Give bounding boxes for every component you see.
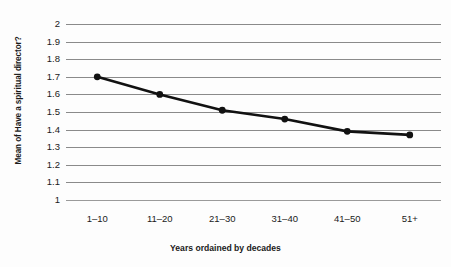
- data-point: [344, 128, 351, 135]
- series-line-spiritual-director: [66, 24, 441, 200]
- y-tick-label: 1.9: [28, 37, 60, 47]
- x-tick-label: 1–10: [87, 214, 108, 224]
- y-tick-label: 1.8: [28, 54, 60, 64]
- y-tick-label: 1.3: [28, 142, 60, 152]
- gridline: [66, 200, 441, 201]
- line-chart: Mean of Have a spiritual director? 21.91…: [0, 0, 451, 267]
- y-tick-label: 1: [28, 195, 60, 205]
- x-tick-label: 11–20: [147, 214, 173, 224]
- y-tick-label: 1.6: [28, 89, 60, 99]
- x-tick-label: 41–50: [334, 214, 360, 224]
- series-markers: [94, 73, 413, 138]
- y-tick-label: 1.2: [28, 160, 60, 170]
- y-tick-label: 1.1: [28, 177, 60, 187]
- y-axis-tick-labels: 21.91.81.71.61.51.41.31.21.11: [28, 0, 60, 267]
- y-axis-title-text: Mean of Have a spiritual director?: [14, 36, 23, 164]
- series-polyline: [97, 77, 410, 135]
- x-tick-label: 51+: [402, 214, 418, 224]
- y-tick-label: 2: [28, 19, 60, 29]
- y-tick-label: 1.7: [28, 72, 60, 82]
- data-point: [219, 107, 226, 114]
- data-point: [406, 131, 413, 138]
- y-tick-label: 1.5: [28, 107, 60, 117]
- plot-area: [66, 24, 441, 200]
- data-point: [281, 116, 288, 123]
- x-tick-label: 21–30: [209, 214, 235, 224]
- x-tick-label: 31–40: [272, 214, 298, 224]
- data-point: [94, 73, 101, 80]
- y-axis-title: Mean of Have a spiritual director?: [9, 0, 27, 200]
- data-point: [156, 91, 163, 98]
- y-tick-label: 1.4: [28, 125, 60, 135]
- x-axis-tick-labels: 1–1011–2021–3031–4041–5051+: [66, 214, 441, 228]
- x-axis-title: Years ordained by decades: [0, 243, 451, 253]
